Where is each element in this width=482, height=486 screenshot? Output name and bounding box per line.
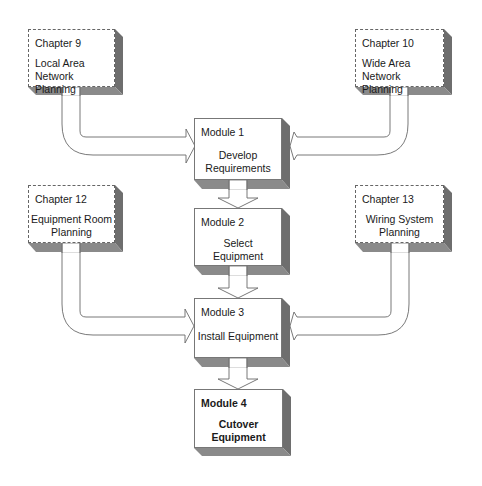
box-title: Chapter 10 <box>362 37 414 49</box>
arrow-ch10-to-m1 <box>290 95 408 160</box>
box-title: Module 3 <box>201 306 244 318</box>
chapter-13-box: Chapter 13 Wiring System Planning <box>355 185 444 243</box>
arrow-ch13-to-m3 <box>290 252 409 340</box>
box-title: Module 4 <box>201 397 247 409</box>
module-1-box: Module 1 Develop Requirements <box>194 118 282 180</box>
module-4-box: Module 4 Cutover Equipment <box>194 389 283 448</box>
box-title: Module 2 <box>201 216 244 228</box>
arrow-ch12-to-m3 <box>62 252 194 343</box>
box-body: Select Equipment <box>195 237 281 263</box>
box-title: Chapter 13 <box>362 193 414 205</box>
box-title: Module 1 <box>201 126 244 138</box>
arrow-m2-to-m3 <box>218 275 258 298</box>
box-body: Develop Requirements <box>195 149 281 175</box>
box-body: Equipment Room Planning <box>29 213 114 239</box>
arrow-ch9-to-m1 <box>62 95 195 163</box>
module-3-box: Module 3 Install Equipment <box>194 298 282 358</box>
arrow-m3-to-m4 <box>218 367 258 389</box>
arrow-m1-to-m2 <box>218 189 258 208</box>
box-title: Chapter 9 <box>35 37 81 49</box>
box-title: Chapter 12 <box>35 193 87 205</box>
box-body: Wiring System Planning <box>356 213 443 239</box>
box-body: Cutover Equipment <box>195 418 282 444</box>
chapter-9-box: Chapter 9 Local Area Network Planning <box>28 29 115 87</box>
box-body: Install Equipment <box>195 330 281 343</box>
box-body: Local Area Network Planning <box>35 57 114 96</box>
module-2-box: Module 2 Select Equipment <box>194 208 282 266</box>
chapter-10-box: Chapter 10 Wide Area Network Planning <box>355 29 444 87</box>
chapter-12-box: Chapter 12 Equipment Room Planning <box>28 185 115 243</box>
box-body: Wide Area Network Planning <box>362 57 443 96</box>
